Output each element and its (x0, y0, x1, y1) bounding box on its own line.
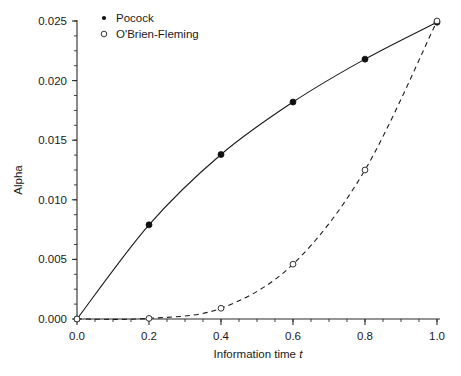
data-point-o-brien-fleming-4 (362, 167, 368, 173)
legend-label-pocock: Pocock (116, 12, 154, 24)
x-axis-title: Information time t (214, 348, 304, 360)
y-axis-title: Alpha (12, 165, 24, 195)
x-tick-label: 0.6 (285, 330, 301, 342)
x-axis-title-prefix: Information time (214, 348, 300, 360)
y-axis-ticks: 0.0000.0050.0100.0150.0200.025 (38, 15, 77, 325)
y-tick-label: 0.025 (38, 15, 67, 27)
data-point-pocock-1 (146, 222, 152, 228)
y-tick-label: 0.005 (38, 253, 67, 265)
data-point-o-brien-fleming-5 (434, 18, 440, 24)
y-axis-minor-ticks (74, 21, 77, 319)
series-curves (77, 21, 437, 319)
data-point-o-brien-fleming-1 (146, 316, 152, 322)
data-point-pocock-3 (290, 99, 296, 105)
plot-canvas: 0.0000.0050.0100.0150.0200.025 0.00.20.4… (0, 0, 461, 376)
data-point-o-brien-fleming-3 (290, 261, 296, 267)
series-curve-pocock (77, 22, 437, 319)
legend-label-obrien-fleming: O'Brien-Fleming (116, 28, 199, 40)
x-tick-label: 0.4 (213, 330, 230, 342)
x-tick-label: 0.2 (141, 330, 157, 342)
chart-figure: 0.0000.0050.0100.0150.0200.025 0.00.20.4… (0, 0, 461, 376)
data-point-o-brien-fleming-2 (218, 305, 224, 311)
y-tick-label: 0.015 (38, 134, 67, 146)
y-tick-label: 0.000 (38, 313, 67, 325)
x-tick-label: 0.0 (69, 330, 85, 342)
axes-group (77, 20, 440, 319)
x-axis-minor-ticks (77, 319, 437, 322)
series-curve-o-brien-fleming (77, 21, 437, 319)
data-point-pocock-4 (362, 56, 368, 62)
y-tick-label: 0.010 (38, 194, 67, 206)
data-point-pocock-2 (218, 152, 224, 158)
legend: Pocock O'Brien-Fleming (101, 12, 199, 40)
series-markers (74, 18, 440, 322)
x-tick-label: 0.8 (357, 330, 373, 342)
y-tick-label: 0.020 (38, 75, 67, 87)
legend-marker-obrien-fleming-icon (101, 31, 107, 37)
x-axis-ticks: 0.00.20.40.60.81.0 (69, 319, 445, 342)
data-point-o-brien-fleming-0 (74, 316, 80, 322)
x-tick-label: 1.0 (429, 330, 445, 342)
legend-marker-pocock-icon (102, 16, 106, 20)
x-axis-title-variable: t (299, 348, 303, 360)
